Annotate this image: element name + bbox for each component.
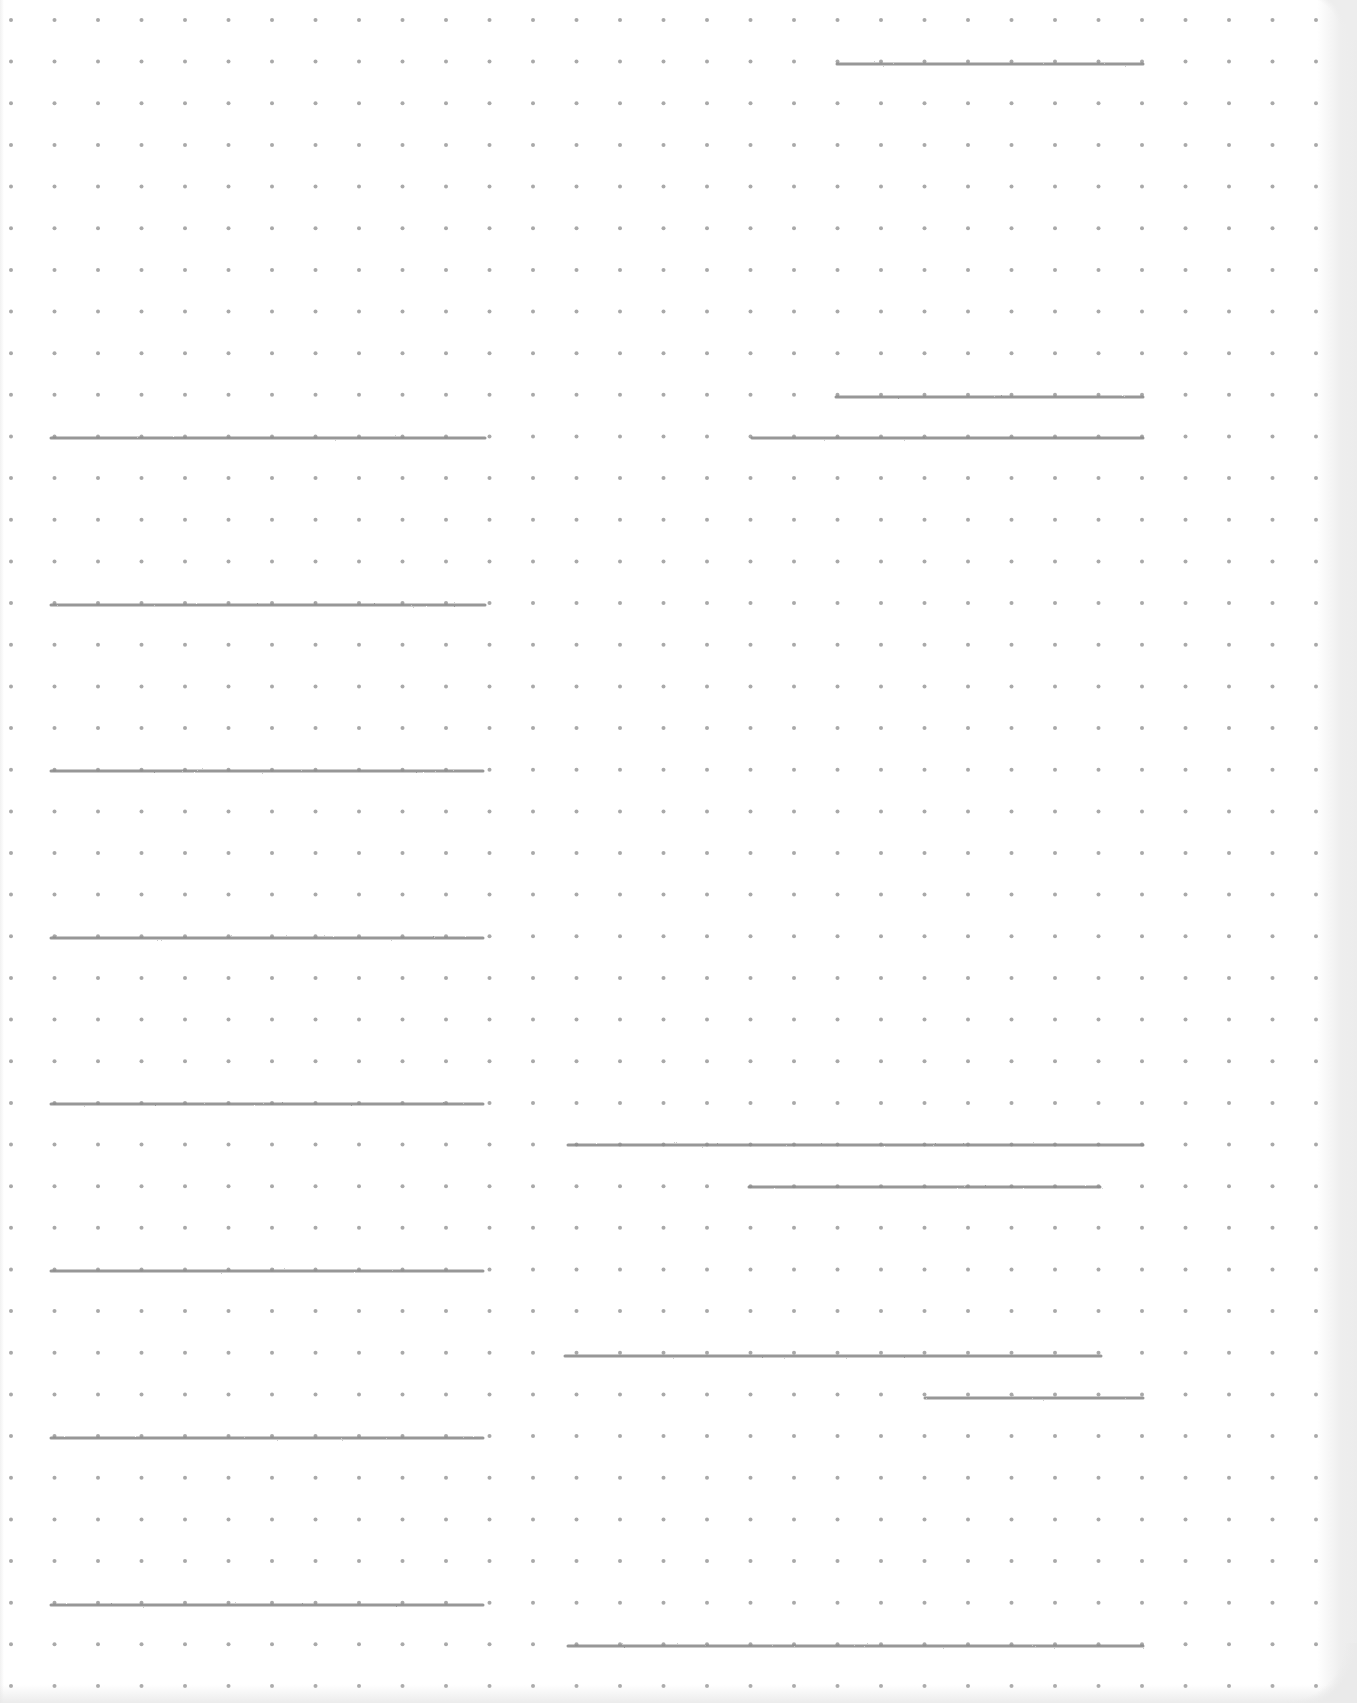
grid-dot [923, 934, 927, 938]
grid-dot [662, 1226, 666, 1230]
grid-dot [270, 1642, 274, 1646]
grid-dot [1184, 1476, 1188, 1480]
grid-dot [488, 1018, 492, 1022]
grid-dot [1314, 1226, 1318, 1230]
grid-dot [966, 601, 970, 605]
grid-dot [140, 851, 144, 855]
grid-dot [879, 1684, 883, 1688]
grid-dot [879, 1018, 883, 1022]
grid-dot [618, 1684, 622, 1688]
grid-dot [662, 768, 666, 772]
grid-dot [9, 934, 13, 938]
grid-dot [314, 1684, 318, 1688]
grid-dot [53, 1059, 57, 1063]
grid-dot [140, 518, 144, 522]
grid-dot [662, 518, 666, 522]
grid-dot [1271, 1309, 1275, 1313]
grid-dot [227, 1684, 231, 1688]
grid-dot [705, 101, 709, 105]
grid-dot [575, 1559, 579, 1563]
grid-dot [705, 1559, 709, 1563]
grid-dot [836, 559, 840, 563]
grid-dot [401, 976, 405, 980]
grid-dot [9, 518, 13, 522]
grid-dot [9, 1184, 13, 1188]
grid-dot [1271, 1268, 1275, 1272]
grid-dot [1010, 643, 1014, 647]
grid-dot [618, 1601, 622, 1605]
grid-dot [792, 1559, 796, 1563]
grid-dot [705, 435, 709, 439]
grid-dot [9, 601, 13, 605]
grid-dot [749, 809, 753, 813]
grid-dot [1314, 1059, 1318, 1063]
grid-dot [314, 1226, 318, 1230]
grid-dot [1271, 1184, 1275, 1188]
grid-dot [531, 893, 535, 897]
grid-dot [1271, 1559, 1275, 1563]
grid-dot [183, 1309, 187, 1313]
grid-dot [96, 393, 100, 397]
grid-dot [488, 1351, 492, 1355]
grid-dot [227, 559, 231, 563]
grid-dot [1227, 435, 1231, 439]
grid-dot [792, 1434, 796, 1438]
grid-dot [749, 476, 753, 480]
grid-dot [531, 1018, 535, 1022]
grid-dot [314, 143, 318, 147]
grid-dot [270, 726, 274, 730]
grid-dot [1271, 351, 1275, 355]
grid-dot [705, 1393, 709, 1397]
grid-dot [1271, 101, 1275, 105]
grid-dot [1097, 1601, 1101, 1605]
grid-dot [488, 518, 492, 522]
grid-dot [1184, 476, 1188, 480]
grid-dot [53, 851, 57, 855]
grid-dot [1227, 726, 1231, 730]
grid-dot [96, 60, 100, 64]
grid-dot [140, 1642, 144, 1646]
grid-dot [1227, 1143, 1231, 1147]
grid-dot [53, 684, 57, 688]
grid-dot [1271, 1601, 1275, 1605]
grid-dot [618, 1393, 622, 1397]
grid-dot [531, 143, 535, 147]
grid-dot [575, 1684, 579, 1688]
grid-dot [749, 726, 753, 730]
grid-dot [879, 1309, 883, 1313]
grid-dot [792, 976, 796, 980]
grid-dot [357, 268, 361, 272]
grid-dot [1140, 1351, 1144, 1355]
grid-dot [1097, 1434, 1101, 1438]
grid-dot [705, 1226, 709, 1230]
grid-dot [1314, 1559, 1318, 1563]
grid-dot [96, 1517, 100, 1521]
grid-dot [705, 1059, 709, 1063]
grid-dot [140, 310, 144, 314]
grid-dot [314, 226, 318, 230]
grid-dot [923, 1517, 927, 1521]
grid-dot [1010, 1601, 1014, 1605]
grid-dot [314, 393, 318, 397]
grid-dot [1184, 1642, 1188, 1646]
grid-dot [705, 809, 709, 813]
grid-dot [575, 1351, 579, 1355]
grid-dot [314, 1393, 318, 1397]
grid-dot [531, 101, 535, 105]
grid-dot [1184, 1018, 1188, 1022]
grid-dot [1140, 1226, 1144, 1230]
grid-dot [183, 101, 187, 105]
grid-dot [618, 1476, 622, 1480]
grid-dot [270, 1393, 274, 1397]
grid-dot [836, 1684, 840, 1688]
grid-dot [357, 1226, 361, 1230]
grid-dot [53, 143, 57, 147]
grid-dot [1010, 1559, 1014, 1563]
grid-dot [531, 393, 535, 397]
grid-dot [662, 476, 666, 480]
grid-dot [531, 1184, 535, 1188]
grid-dot [575, 143, 579, 147]
grid-dot [270, 1143, 274, 1147]
grid-dot [357, 1143, 361, 1147]
grid-dot [1314, 393, 1318, 397]
